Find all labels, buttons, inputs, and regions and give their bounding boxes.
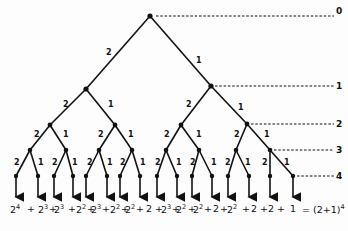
svg-text:1: 1 <box>72 158 78 167</box>
svg-text:1: 1 <box>264 130 270 139</box>
svg-text:2: 2 <box>87 158 93 167</box>
svg-text:3: 3 <box>336 145 342 155</box>
svg-text:2: 2 <box>106 48 112 57</box>
svg-text:2: 2 <box>14 158 20 167</box>
svg-text:2: 2 <box>336 119 342 129</box>
svg-text:2: 2 <box>34 130 40 139</box>
formula-result: = (2+1)4 <box>302 203 345 215</box>
svg-text:2: 2 <box>186 100 192 109</box>
svg-text:1: 1 <box>140 158 146 167</box>
level-guides <box>156 16 334 176</box>
svg-text:2: 2 <box>262 158 268 167</box>
leaf-arrows <box>16 176 293 197</box>
svg-text:1: 1 <box>196 56 202 65</box>
svg-text:2: 2 <box>155 158 161 167</box>
level-labels: 0 1 2 3 4 <box>336 6 342 181</box>
svg-text:2: 2 <box>52 158 58 167</box>
svg-text:1: 1 <box>63 130 69 139</box>
svg-text:1: 1 <box>128 130 134 139</box>
svg-text:1: 1 <box>38 158 44 167</box>
svg-text:2: 2 <box>190 158 196 167</box>
svg-text:1: 1 <box>336 81 342 91</box>
svg-text:1: 1 <box>245 158 251 167</box>
svg-text:1: 1 <box>284 158 290 167</box>
svg-text:1: 1 <box>176 158 182 167</box>
tree-edges <box>16 16 293 176</box>
svg-text:1: 1 <box>196 130 202 139</box>
svg-text:2: 2 <box>120 158 126 167</box>
svg-text:1: 1 <box>108 100 114 109</box>
svg-text:2: 2 <box>225 158 231 167</box>
svg-text:2: 2 <box>98 130 104 139</box>
edge-labels: 21 21 21 21 21 21 21 21 21 21 21 21 21 2… <box>14 48 290 167</box>
svg-text:1: 1 <box>107 158 113 167</box>
svg-text:1: 1 <box>211 158 217 167</box>
term: 24 <box>10 203 20 215</box>
svg-text:1: 1 <box>238 103 244 112</box>
svg-text:4: 4 <box>336 171 342 181</box>
svg-text:0: 0 <box>336 6 342 16</box>
tree-graphic: 0 1 2 3 4 21 21 21 21 21 21 21 21 21 21 … <box>0 0 348 231</box>
tree-diagram: 0 1 2 3 4 21 21 21 21 21 21 21 21 21 21 … <box>0 0 348 231</box>
svg-text:2: 2 <box>63 100 69 109</box>
svg-text:2: 2 <box>164 130 170 139</box>
last-term: 1 <box>290 203 296 214</box>
tree-nodes <box>14 13 295 178</box>
svg-text:2: 2 <box>234 130 240 139</box>
